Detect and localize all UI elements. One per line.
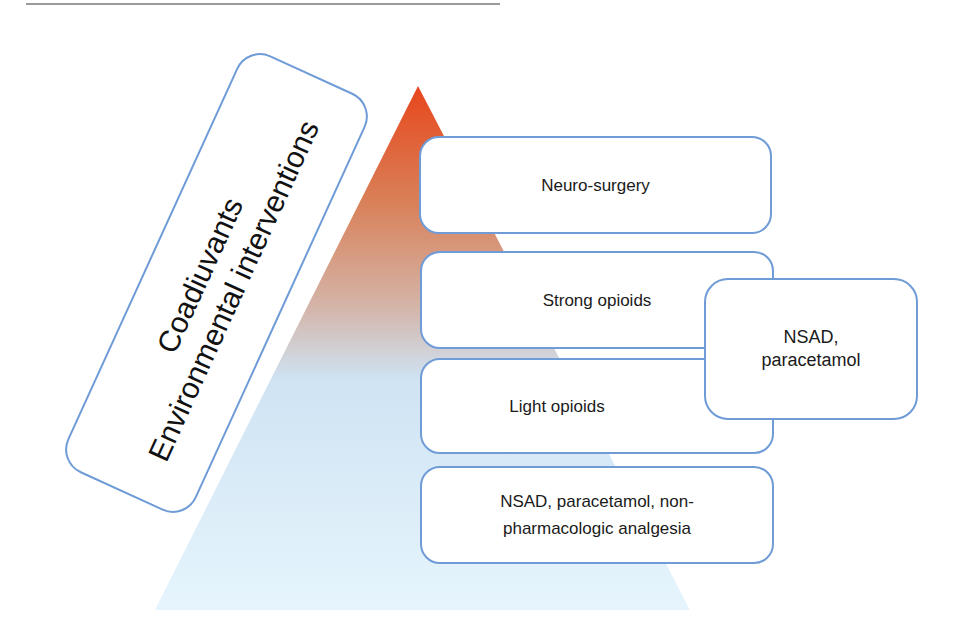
step-label: Strong opioids (543, 287, 652, 314)
adjunct-label-line2: paracetamol (761, 349, 860, 372)
adjunct-nsad-paracetamol-box: NSAD, paracetamol (704, 278, 918, 420)
step-neuro-surgery: Neuro-surgery (419, 136, 772, 234)
step-label-line2: pharmacologic analgesia (503, 515, 691, 542)
step-label-line1: NSAD, paracetamol, non- (500, 488, 694, 515)
step-label: Light opioids (509, 393, 604, 420)
step-label: Neuro-surgery (541, 172, 650, 199)
step-nsad-paracetamol-non-pharmacologic: NSAD, paracetamol, non- pharmacologic an… (420, 466, 774, 564)
adjunct-label-line1: NSAD, (783, 326, 838, 349)
